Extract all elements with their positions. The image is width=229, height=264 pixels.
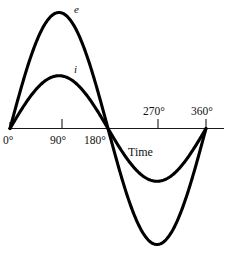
x-tick-label-90deg: 90° xyxy=(50,134,67,146)
x-tick-label-270deg: 270° xyxy=(143,105,165,117)
x-axis-title: Time xyxy=(128,145,153,159)
waveform-chart: 0° 90° 180° 270° 360° Time e i xyxy=(0,0,229,264)
sine-wave-figure: 0° 90° 180° 270° 360° Time e i xyxy=(0,0,229,264)
x-tick-label-0deg: 0° xyxy=(3,134,14,146)
curve-label-i: i xyxy=(74,63,77,75)
x-tick-label-180deg: 180° xyxy=(84,134,106,146)
curve-label-e: e xyxy=(74,3,79,15)
x-tick-label-360deg: 360° xyxy=(191,105,213,117)
